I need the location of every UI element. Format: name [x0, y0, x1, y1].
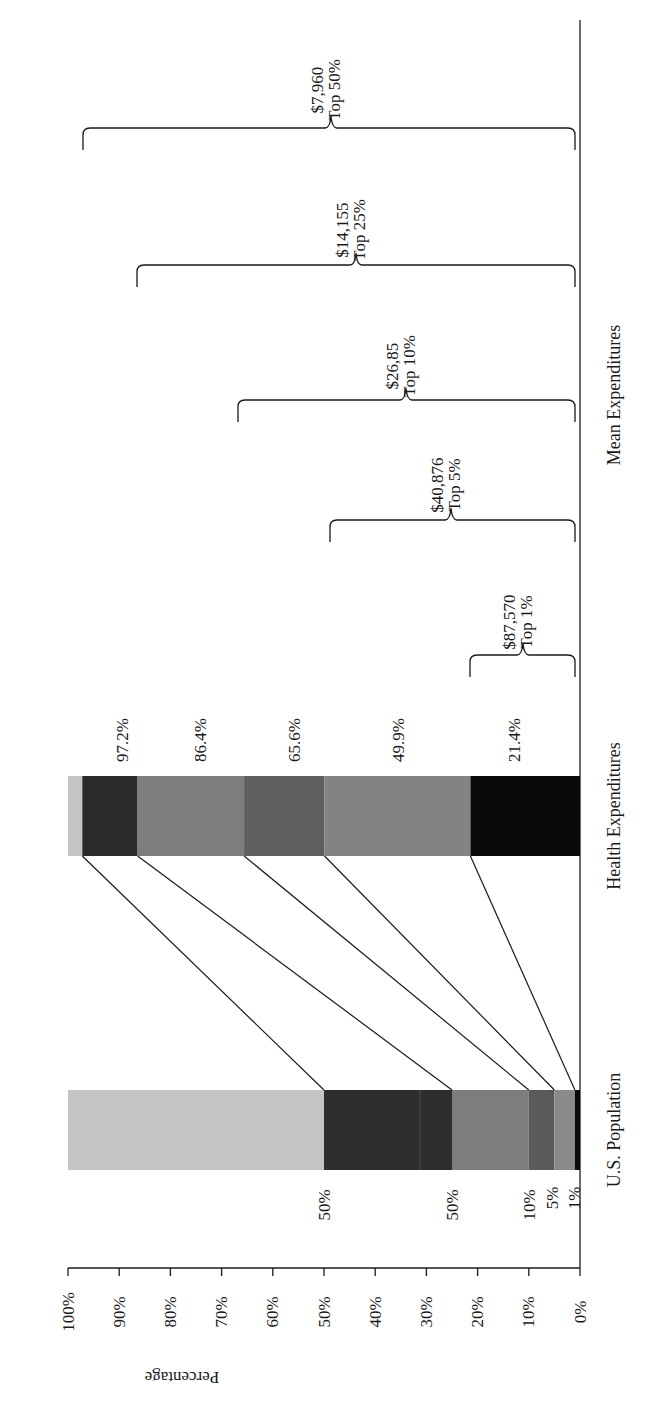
health-segment-49-65 — [244, 776, 324, 856]
chart-canvas: 100% 90% 80% 70% 60% 50% 40% 30% 20% 10%… — [0, 0, 656, 1426]
category-label-population: U.S. Population — [604, 1073, 624, 1188]
population-segment-bottom-50 — [68, 1090, 324, 1170]
percentage-axis: 100% 90% 80% 70% 60% 50% 40% 30% 20% 10%… — [59, 1268, 590, 1387]
bracket-label-top-50: Top 50% — [325, 59, 344, 121]
population-segment-5-10 — [529, 1090, 555, 1170]
population-label-5: 5% — [543, 1187, 562, 1210]
brackets — [83, 116, 575, 677]
bracket-label-top-25: Top 25% — [350, 199, 369, 261]
tick-label-70: 70% — [212, 1296, 231, 1327]
population-label-10: 10% — [520, 1189, 539, 1220]
population-label-1: 1% — [565, 1187, 584, 1210]
tick-label-30: 30% — [417, 1296, 436, 1327]
health-segment-65-86 — [138, 776, 245, 856]
health-bar — [68, 776, 580, 856]
population-segment-10-25 — [452, 1090, 529, 1170]
tick-label-80: 80% — [161, 1296, 180, 1327]
population-label-50b: 50% — [443, 1189, 462, 1220]
tick-label-10: 10% — [519, 1296, 538, 1327]
tick-label-20: 20% — [468, 1296, 487, 1327]
population-segment-25-50 — [324, 1090, 452, 1170]
health-segment-0-21 — [470, 776, 580, 856]
bracket-label-top-1: Top 1% — [517, 595, 536, 648]
population-segment-top-1 — [575, 1090, 580, 1170]
health-segment-86-97 — [82, 776, 137, 856]
tick-label-60: 60% — [263, 1296, 282, 1327]
tick-label-90: 90% — [110, 1296, 129, 1327]
category-label-mean: Mean Expenditures — [604, 325, 624, 465]
health-label-97: 97.2% — [113, 718, 132, 762]
connector-lines — [82, 856, 575, 1090]
y-axis-title: Percentage — [145, 1368, 220, 1387]
population-segment-1-5 — [554, 1090, 575, 1170]
health-segment-97-100 — [68, 776, 82, 856]
health-label-49: 49.9% — [389, 718, 408, 762]
bracket-label-top-10: Top 10% — [400, 335, 419, 397]
health-label-21: 21.4% — [505, 718, 524, 762]
tick-label-0: 0% — [571, 1301, 590, 1324]
health-label-65: 65.6% — [285, 718, 304, 762]
category-label-health: Health Expenditures — [604, 742, 624, 889]
tick-label-40: 40% — [366, 1296, 385, 1327]
population-bar — [68, 1090, 580, 1170]
bracket-top-5 — [330, 508, 575, 542]
bracket-label-top-5: Top 5% — [445, 458, 464, 511]
health-segment-21-49 — [325, 776, 471, 856]
population-label-50a: 50% — [315, 1189, 334, 1220]
tick-label-100: 100% — [59, 1292, 78, 1332]
tick-label-50: 50% — [315, 1296, 334, 1327]
health-label-86: 86.4% — [191, 718, 210, 762]
